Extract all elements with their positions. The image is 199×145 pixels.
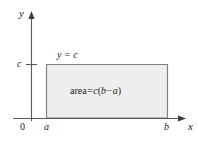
figure-canvas: [0, 0, 199, 145]
x-axis-label: x: [188, 121, 193, 132]
y-tick-label-c: c: [17, 59, 21, 69]
x-tick-label-a: a: [44, 122, 49, 132]
area-under-constant-function-figure: y x c 0 a b y = c area=c(b−a): [0, 0, 199, 145]
origin-label: 0: [20, 122, 25, 132]
area-formula-minus: −: [106, 85, 113, 96]
area-formula-word: area: [70, 85, 87, 96]
y-axis-label: y: [19, 8, 24, 19]
area-formula-label: area=c(b−a): [70, 86, 121, 96]
x-axis-arrowhead: [178, 115, 186, 121]
y-axis-arrowhead: [28, 11, 34, 19]
function-label: y = c: [57, 50, 78, 60]
x-tick-label-b: b: [164, 122, 169, 132]
area-formula-close-paren: ): [118, 85, 121, 96]
